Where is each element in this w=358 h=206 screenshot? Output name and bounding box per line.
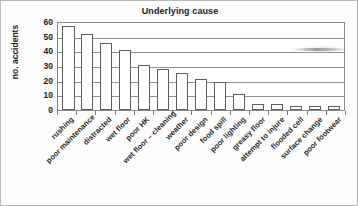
- y-tick-mark-20: [49, 81, 53, 82]
- bar: [100, 43, 112, 110]
- bar-slot: [97, 22, 116, 110]
- bar: [195, 79, 207, 110]
- bar: [328, 106, 340, 110]
- bar-slot: [305, 22, 324, 110]
- bar-slot: [229, 22, 248, 110]
- y-tick-mark-60: [49, 22, 53, 23]
- bar: [119, 50, 131, 110]
- chart-title: Underlying cause: [1, 6, 358, 16]
- bar: [214, 82, 226, 110]
- y-tick-mark-30: [49, 66, 53, 67]
- plot-area: [57, 22, 345, 111]
- bar-slot: [267, 22, 286, 110]
- y-tick-mark-40: [49, 51, 53, 52]
- bar-slot: [135, 22, 154, 110]
- bar-slot: [59, 22, 78, 110]
- bar-slot: [248, 22, 267, 110]
- y-axis-tick-labels: 0102030405060: [27, 22, 53, 111]
- bar-slot: [211, 22, 230, 110]
- bar: [309, 106, 321, 110]
- bar-slot: [116, 22, 135, 110]
- x-axis-tick-labels: rushingpoor maintenancedistractedwet flo…: [57, 115, 345, 206]
- bar: [176, 73, 188, 110]
- bar: [157, 69, 169, 110]
- x-tick-mark: [345, 111, 346, 115]
- y-tick-mark-10: [49, 95, 53, 96]
- bar: [138, 65, 150, 110]
- y-tick-mark-50: [49, 37, 53, 38]
- bar-slot: [154, 22, 173, 110]
- bar: [233, 94, 245, 110]
- y-tick-mark-0: [49, 110, 53, 111]
- bar-series: [59, 22, 343, 110]
- bar-slot: [324, 22, 343, 110]
- bar: [271, 104, 283, 110]
- bar: [290, 106, 302, 110]
- y-axis-title: no. accidents: [10, 7, 20, 97]
- bar-slot: [78, 22, 97, 110]
- bar: [62, 26, 74, 110]
- bar-slot: [286, 22, 305, 110]
- bar: [252, 104, 264, 110]
- bar-slot: [192, 22, 211, 110]
- chart-screenshot: Underlying cause no. accidents 010203040…: [0, 0, 358, 206]
- bar: [81, 34, 93, 110]
- bar-slot: [173, 22, 192, 110]
